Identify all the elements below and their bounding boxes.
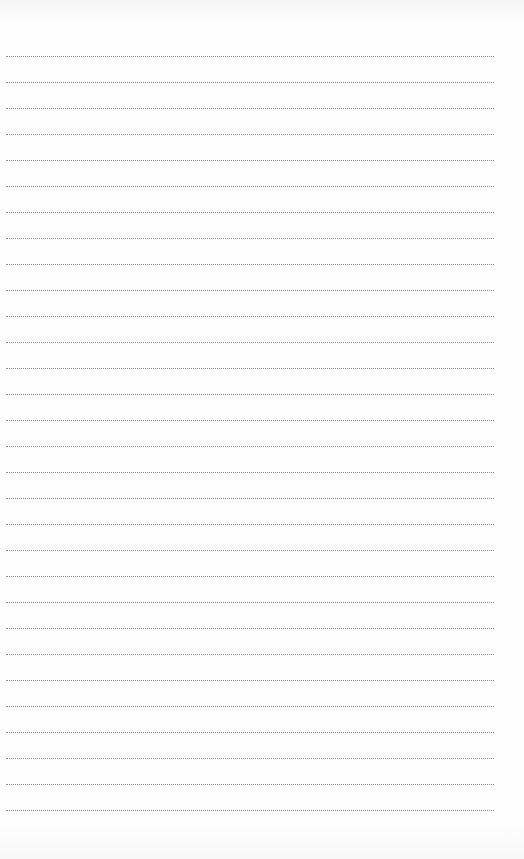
ruled-line (6, 368, 494, 369)
ruled-line (6, 732, 494, 733)
ruled-line (6, 108, 494, 109)
ruled-line (6, 550, 494, 551)
bleed-through-bottom (0, 819, 524, 859)
ruled-line (6, 212, 494, 213)
ruled-line (6, 784, 494, 785)
ruled-line (6, 602, 494, 603)
ruled-line (6, 810, 494, 811)
ruled-line (6, 238, 494, 239)
ruled-line (6, 82, 494, 83)
ruled-line (6, 186, 494, 187)
ruled-line (6, 576, 494, 577)
lined-page (0, 0, 524, 859)
ruled-line (6, 342, 494, 343)
ruled-line (6, 264, 494, 265)
ruled-line (6, 290, 494, 291)
ruled-line (6, 628, 494, 629)
ruled-line (6, 56, 494, 57)
ruled-line (6, 316, 494, 317)
ruled-line (6, 524, 494, 525)
ruled-line (6, 446, 494, 447)
ruled-line (6, 134, 494, 135)
ruled-line (6, 680, 494, 681)
ruled-line (6, 420, 494, 421)
ruled-line (6, 498, 494, 499)
ruled-line (6, 758, 494, 759)
ruled-line (6, 394, 494, 395)
ruled-line (6, 654, 494, 655)
ruled-line (6, 472, 494, 473)
ruled-line (6, 706, 494, 707)
ruled-line (6, 160, 494, 161)
bleed-through-top (0, 0, 524, 24)
